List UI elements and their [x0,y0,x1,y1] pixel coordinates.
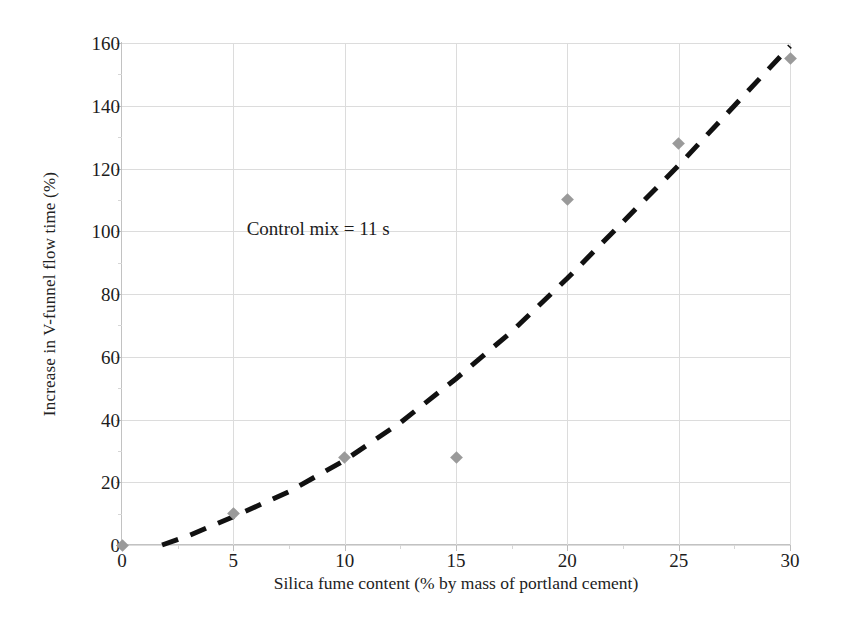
plot-area: 020406080100120140160 051015202530 Contr… [122,43,790,545]
chart-figure: Increase in V-funnel flow time (%) 02040… [0,0,841,628]
y-tick-label: 80 [60,285,120,304]
y-tick-label: 120 [60,160,120,179]
data-point-marker [784,52,797,65]
y-tick-label: 100 [60,222,120,241]
x-axis-title: Silica fume content (% by mass of portla… [122,573,790,594]
chart-annotation: Control mix = 11 s [247,218,390,240]
y-tick-label: 40 [60,411,120,430]
x-tick-label: 25 [649,551,709,570]
x-axis-minor-tick [512,545,513,549]
x-axis-minor-tick [400,545,401,549]
x-tick-label: 0 [92,551,152,570]
y-tick-label: 140 [60,97,120,116]
x-axis-minor-tick [623,545,624,549]
data-points-layer [122,43,790,545]
data-point-marker [450,451,463,464]
x-tick-label: 5 [203,551,263,570]
y-tick-label: 160 [60,34,120,53]
x-tick-label: 20 [537,551,597,570]
x-axis-minor-tick [178,545,179,549]
y-tick-label: 20 [60,473,120,492]
data-point-marker [672,137,685,150]
y-tick-label: 60 [60,348,120,367]
x-axis-minor-tick [734,545,735,549]
x-tick-label: 10 [315,551,375,570]
gridline-vertical [790,43,791,545]
data-point-marker [227,507,240,520]
data-point-marker [338,451,351,464]
x-tick-label: 30 [760,551,820,570]
x-axis-minor-tick [289,545,290,549]
y-axis-title: Increase in V-funnel flow time (%) [38,43,62,545]
x-tick-label: 15 [426,551,486,570]
data-point-marker [561,194,574,207]
